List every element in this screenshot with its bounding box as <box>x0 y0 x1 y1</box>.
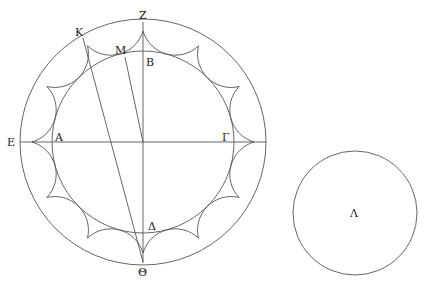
label-Lambda: Λ <box>349 207 359 220</box>
tangent-arc <box>47 197 89 239</box>
tangent-arc <box>198 197 240 239</box>
line-M-center <box>125 57 143 142</box>
tangent-arc <box>47 46 89 88</box>
label-Gamma: Γ <box>222 131 230 144</box>
label-E: E <box>7 136 15 149</box>
geometric-diagram: Z K M B E A Γ Δ Θ Λ <box>0 0 427 286</box>
label-Delta: Δ <box>148 220 156 233</box>
line-K-Theta <box>83 38 143 262</box>
label-K: K <box>75 26 84 39</box>
label-M: M <box>115 44 126 57</box>
label-B: B <box>146 56 154 69</box>
tangent-arc <box>198 46 240 88</box>
label-Theta: Θ <box>138 266 147 279</box>
label-Z: Z <box>139 9 147 22</box>
label-A: A <box>54 131 64 144</box>
